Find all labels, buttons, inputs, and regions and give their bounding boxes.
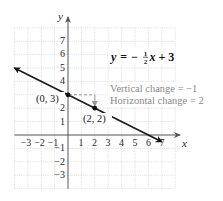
y-tick: 6 (60, 48, 65, 59)
x-axis-label: x (181, 137, 187, 149)
x-tick: 5 (133, 137, 138, 148)
y-tick: 5 (60, 62, 65, 73)
x-tick: 7 (160, 137, 165, 148)
svg-text:2: 2 (144, 58, 148, 66)
x-tick: −3 (21, 137, 32, 148)
x-tick: 2 (92, 137, 97, 148)
x-tick: 4 (119, 137, 124, 148)
point-label-2-2: (2, 2) (83, 113, 106, 125)
horizontal-change-note: Horizontal change = 2 (110, 95, 204, 106)
x-tick: 3 (106, 137, 111, 148)
point-label-0-3: (0, 3) (36, 93, 59, 105)
svg-text:1: 1 (144, 50, 148, 58)
y-tick: 4 (60, 75, 65, 86)
svg-text:y=−: y=− (109, 50, 138, 64)
y-tick: 7 (60, 35, 65, 46)
x-tick: 1 (79, 137, 84, 148)
y-tick: −1 (54, 142, 65, 153)
vertical-change-note: Vertical change = −1 (110, 83, 197, 94)
y-axis-label: y (57, 10, 63, 22)
y-tick-labels: 1 2 3 4 5 6 7 −1 −2 −3 (54, 35, 65, 180)
x-tick: −2 (34, 137, 45, 148)
y-tick: 1 (60, 116, 65, 127)
y-tick: −3 (54, 169, 65, 180)
y-tick: −2 (54, 156, 65, 167)
point-2-2 (92, 106, 97, 111)
svg-text:x+ 3: x+ 3 (149, 50, 175, 64)
x-tick: 6 (146, 137, 151, 148)
point-0-3 (66, 92, 71, 97)
x-tick-labels: −3 −2 −1 1 2 3 4 5 6 7 (21, 137, 165, 148)
coordinate-graph: x y −3 −2 −1 1 2 3 4 5 6 7 1 2 3 4 5 6 7… (0, 0, 223, 201)
